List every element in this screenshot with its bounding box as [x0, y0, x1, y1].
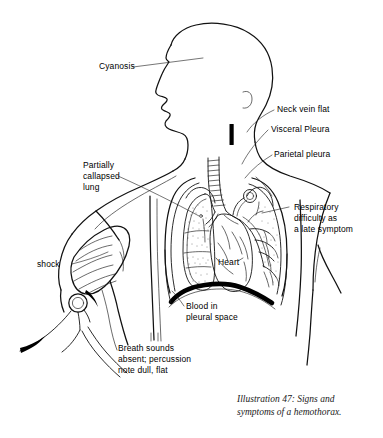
heart-group [210, 190, 257, 292]
bp-cuff-group [20, 211, 130, 377]
label-neck-vein-flat: Neck vein flat [277, 104, 329, 115]
label-shock: shock [37, 259, 60, 270]
neck-vein-flat-marker [230, 124, 234, 145]
right-lung-bronchial-tree-group [240, 202, 279, 287]
leader-neck-vein-flat [247, 110, 274, 132]
label-cyanosis: Cyanosis [99, 61, 135, 72]
leader-respiratory-difficulty [262, 207, 289, 213]
leader-cyanosis [133, 58, 203, 67]
label-parietal-pleura: Parietal pleura [274, 149, 330, 160]
leader-parietal-pleura [245, 155, 272, 178]
label-visceral-pleura: Visceral Pleura [271, 124, 330, 135]
leader-visceral-pleura [242, 130, 268, 164]
hemothorax-illustration: Cyanosis Neck vein flat Visceral Pleura … [0, 0, 383, 438]
label-heart: Heart [218, 257, 239, 268]
